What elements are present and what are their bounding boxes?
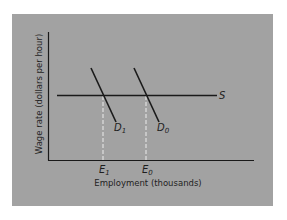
e0-tick-label: E0 — [142, 164, 153, 177]
d1-label: D1 — [114, 122, 126, 135]
d0-label: D0 — [157, 122, 170, 135]
y-axis-title: Wage rate (dollars per hour) — [34, 34, 44, 154]
x-axis-title: Employment (thousands) — [94, 178, 201, 188]
labor-market-diagram: S D1 D0 E1 E0 Employment (thousands) Wag… — [0, 0, 287, 220]
supply-label: S — [219, 90, 226, 101]
e1-tick-label: E1 — [99, 164, 110, 177]
